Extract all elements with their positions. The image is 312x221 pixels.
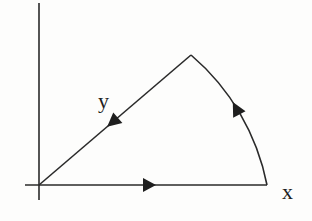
arc-segment: [191, 55, 267, 185]
arrow-up-icon: [227, 99, 246, 118]
y-label: y: [98, 88, 109, 113]
x-label: x: [282, 179, 293, 204]
diagram-svg: y x: [0, 0, 312, 221]
arrow-right-icon: [143, 178, 156, 192]
contour-diagram: y x: [0, 0, 312, 221]
